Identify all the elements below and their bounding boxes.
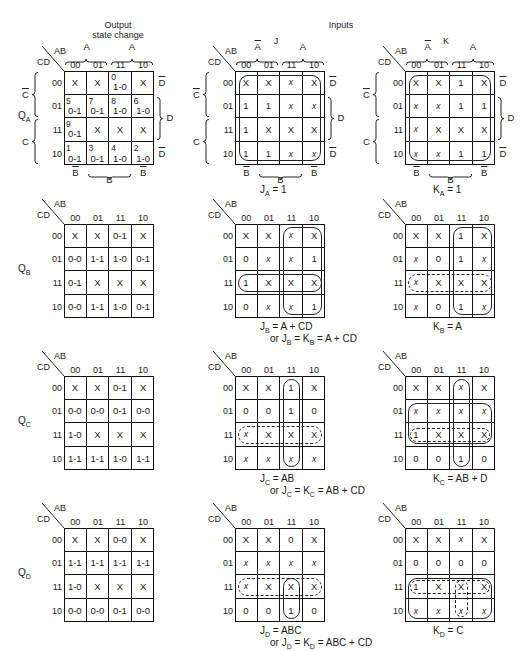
map-cell: 1 bbox=[450, 295, 473, 319]
row-header: 11 bbox=[44, 278, 62, 288]
cell-value: 1 bbox=[311, 253, 316, 264]
transition-value: 1-1 bbox=[136, 557, 150, 568]
dont-care: X bbox=[243, 77, 249, 88]
transition-value: X bbox=[94, 77, 100, 88]
dont-care: X bbox=[288, 277, 294, 288]
d-brace bbox=[328, 97, 335, 140]
small-dont-care: x bbox=[289, 254, 293, 264]
map-cell: 1 bbox=[473, 142, 496, 166]
map-cell: X bbox=[428, 71, 451, 95]
dont-care: X bbox=[481, 581, 487, 592]
map-cell: 0 bbox=[303, 400, 326, 424]
small-dont-care: x bbox=[289, 77, 293, 87]
row-header: 01 bbox=[44, 406, 62, 416]
eq-lhs: K bbox=[433, 321, 440, 332]
c-bar-brace bbox=[32, 72, 39, 117]
map-cell: 0 bbox=[235, 400, 258, 424]
map-cell: x bbox=[450, 528, 473, 552]
row-header: 00 bbox=[215, 231, 233, 241]
c-label: C bbox=[22, 137, 29, 147]
small-dont-care: x bbox=[436, 101, 440, 111]
column-header: 11 bbox=[280, 213, 303, 223]
cell-value: 1 bbox=[458, 301, 463, 312]
transition-value: X bbox=[140, 230, 146, 241]
ab-axis-label: AB bbox=[54, 504, 66, 513]
j-grid: XX0XxxxxxXXX0010 bbox=[235, 528, 325, 622]
ab-axis-label: AB bbox=[225, 200, 237, 209]
map-cell: 1 bbox=[303, 295, 326, 319]
map-cell: x bbox=[280, 295, 303, 319]
transition-value: 0-1 bbox=[136, 301, 150, 312]
cell-value: 1 bbox=[288, 382, 293, 393]
combined-equation: or JB = KB = A + CD bbox=[270, 333, 357, 346]
k-equation: KD = C bbox=[433, 625, 463, 638]
dont-care: X bbox=[243, 230, 249, 241]
transition-value: 0-0 bbox=[68, 253, 82, 264]
map-cell: 0-0 bbox=[132, 400, 155, 424]
map-cell: 0-0 bbox=[64, 599, 87, 623]
map-cell: 1 bbox=[450, 142, 473, 166]
map-cell: 1 bbox=[235, 142, 258, 166]
column-header: 11 bbox=[450, 517, 473, 527]
a-brace bbox=[111, 52, 153, 59]
map-cell: 1-0 bbox=[109, 248, 132, 272]
dont-care: X bbox=[311, 77, 317, 88]
map-cell: X bbox=[235, 224, 258, 248]
dont-care: X bbox=[481, 124, 487, 135]
column-header: 11 bbox=[109, 213, 132, 223]
cell-value: 1 bbox=[243, 277, 248, 288]
transition-value: 1-1 bbox=[91, 557, 105, 568]
a-bar-label: A bbox=[425, 42, 431, 52]
j-grid: XXxX11xx1XXX11xx bbox=[235, 71, 325, 165]
transition-value: X bbox=[140, 77, 146, 88]
map-cell: 1 bbox=[235, 271, 258, 295]
j-grid: XX1X0010xXXXxxxx bbox=[235, 376, 325, 470]
state-index: 4 bbox=[111, 143, 116, 153]
row-header: 10 bbox=[44, 606, 62, 616]
row-header: 01 bbox=[385, 101, 403, 111]
map-cell: X bbox=[473, 528, 496, 552]
map-cell: 0 bbox=[280, 528, 303, 552]
dont-care: X bbox=[481, 77, 487, 88]
small-dont-care: x bbox=[414, 277, 418, 287]
transition-value: 1-0 bbox=[68, 429, 82, 440]
c-brace bbox=[203, 119, 210, 164]
map-cell: X bbox=[64, 376, 87, 400]
state-index: 0 bbox=[111, 72, 116, 82]
k-equation: KB = A bbox=[433, 321, 462, 334]
eq-rhs: = AB + D bbox=[448, 473, 488, 484]
map-cell: 1-1 bbox=[64, 447, 87, 471]
map-cell: 0 bbox=[450, 552, 473, 576]
k-grid: XX1Xxx11xXXXxx11 bbox=[405, 71, 495, 165]
row-header: 01 bbox=[215, 558, 233, 568]
map-cell: 1 bbox=[303, 248, 326, 272]
map-cell: X bbox=[87, 118, 110, 142]
transition-value: X bbox=[94, 429, 100, 440]
state-index: 7 bbox=[89, 96, 94, 106]
map-cell: X bbox=[280, 271, 303, 295]
ab-axis-label: AB bbox=[225, 504, 237, 513]
column-header: 01 bbox=[428, 517, 451, 527]
k-grid: XXxX00001XXXxxxx bbox=[405, 528, 495, 622]
row-header: 00 bbox=[385, 78, 403, 88]
map-cell: X bbox=[87, 376, 110, 400]
dont-care: X bbox=[311, 429, 317, 440]
map-cell: X bbox=[64, 224, 87, 248]
row-header: 00 bbox=[215, 78, 233, 88]
cell-value: 0 bbox=[436, 557, 441, 568]
map-cell: X bbox=[132, 118, 155, 142]
map-cell: X bbox=[428, 376, 451, 400]
map-cell: x bbox=[450, 376, 473, 400]
row-header: 01 bbox=[215, 254, 233, 264]
small-dont-care: x bbox=[312, 149, 316, 159]
a-label: A bbox=[470, 42, 476, 52]
small-dont-care: x bbox=[482, 606, 486, 616]
flip-flop-label: QB bbox=[18, 263, 30, 276]
transition-value: 1-0 bbox=[113, 253, 127, 264]
cell-value: 0 bbox=[243, 301, 248, 312]
cd-axis-label: CD bbox=[37, 58, 50, 67]
map-cell: 01-0 bbox=[109, 71, 132, 95]
map-cell: 0-0 bbox=[64, 295, 87, 319]
dont-care: X bbox=[265, 429, 271, 440]
small-dont-care: x bbox=[414, 606, 418, 616]
